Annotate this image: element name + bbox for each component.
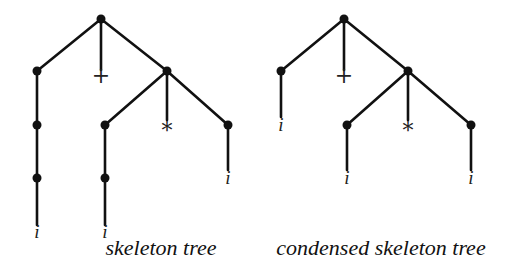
skeleton-node: [163, 67, 172, 76]
condensed-leaf-label: i: [278, 114, 283, 135]
condensed-edge: [344, 19, 408, 71]
condensed-node: [467, 121, 476, 130]
skeleton-edge: [105, 71, 167, 125]
condensed-node: [404, 67, 413, 76]
condensed-leaf-label: i: [344, 167, 349, 188]
skeleton-leaf-label: i: [225, 167, 230, 188]
condensed-plus-operator: +: [335, 63, 353, 88]
skeleton-node: [101, 121, 110, 130]
caption-skeleton-tree: skeleton tree: [106, 235, 217, 260]
condensed-times-operator: *: [403, 118, 414, 143]
condensed-edge: [408, 71, 471, 125]
condensed-leaf-label: i: [468, 167, 473, 188]
condensed-node: [343, 121, 352, 130]
condensed-node: [340, 15, 349, 24]
skeleton-node: [224, 121, 233, 130]
skeleton-edge: [167, 71, 228, 125]
skeleton-leaf-label: i: [34, 221, 39, 242]
skeleton-times-operator: *: [162, 118, 173, 143]
condensed-node: [277, 67, 286, 76]
skeleton-node: [33, 121, 42, 130]
caption-condensed-skeleton-tree: condensed skeleton tree: [276, 235, 486, 260]
skeleton-node: [33, 174, 42, 183]
tree-diagram: +*iii+*iii skeleton tree condensed skele…: [0, 0, 510, 263]
skeleton-node: [97, 15, 106, 24]
condensed-edge: [347, 71, 408, 125]
skeleton-plus-operator: +: [92, 63, 110, 88]
skeleton-node: [101, 174, 110, 183]
skeleton-node: [33, 67, 42, 76]
skeleton-edge: [101, 19, 167, 71]
